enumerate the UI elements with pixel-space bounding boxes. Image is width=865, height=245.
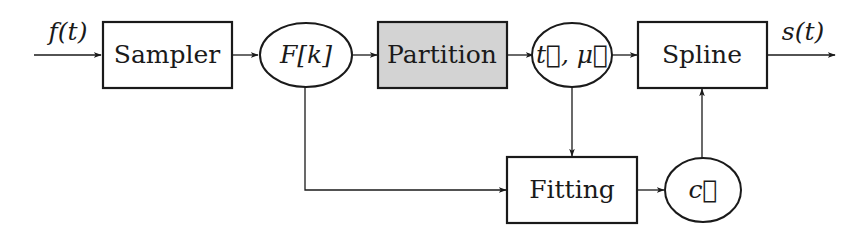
input-label: f(t) — [47, 17, 88, 46]
fitting-label: Fitting — [529, 175, 615, 204]
knots-label: t⃗, μ⃗ — [536, 40, 608, 69]
sampler-label: Sampler — [114, 40, 221, 69]
block-diagram: f(t) s(t) Sampler F[k] Partition t⃗, μ⃗ … — [0, 0, 865, 245]
spline-label: Spline — [662, 40, 742, 69]
coeffs-node: c⃗ — [665, 158, 741, 222]
knots-node: t⃗, μ⃗ — [532, 23, 612, 87]
sampler-block: Sampler — [103, 22, 232, 88]
output-label: s(t) — [782, 17, 824, 46]
coeffs-label: c⃗ — [688, 175, 717, 204]
spline-block: Spline — [638, 22, 767, 88]
fitting-block: Fitting — [507, 157, 637, 223]
partition-label: Partition — [387, 40, 497, 69]
samples-label: F[k] — [279, 40, 332, 69]
samples-node: F[k] — [260, 23, 352, 87]
edge-samples-to-fitting — [305, 87, 506, 190]
partition-block: Partition — [378, 22, 507, 88]
